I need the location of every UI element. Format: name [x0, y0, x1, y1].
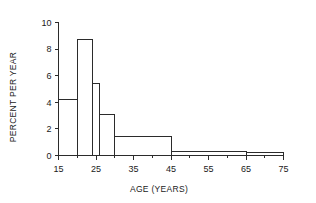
x-tick-label-55: 55 [203, 164, 213, 174]
histogram-bar-45-65 [171, 152, 246, 156]
y-tick-label-8: 8 [46, 44, 51, 54]
x-axis-title: AGE (YEARS) [130, 184, 188, 194]
histogram-bar-24-26 [92, 84, 100, 156]
histogram-bar-20-24 [77, 40, 92, 156]
x-tick-label-75: 75 [278, 164, 288, 174]
histogram-bar-26-30 [100, 114, 115, 155]
y-tick-label-2: 2 [46, 124, 51, 134]
y-axis-title: PERCENT PER YEAR [8, 52, 18, 142]
histogram-bar-15-20 [59, 100, 78, 156]
y-tick-label-6: 6 [46, 71, 51, 81]
histogram-bar-30-45 [115, 137, 171, 156]
chart-canvas: 024681015253545556575 AGE (YEARS) PERCEN… [0, 0, 316, 203]
y-tick-label-0: 0 [46, 151, 51, 161]
x-tick-label-25: 25 [91, 164, 101, 174]
histogram-chart: 024681015253545556575 AGE (YEARS) PERCEN… [0, 0, 316, 203]
x-tick-label-35: 35 [128, 164, 138, 174]
x-tick-label-15: 15 [53, 164, 63, 174]
x-tick-label-65: 65 [241, 164, 251, 174]
y-tick-label-10: 10 [41, 18, 51, 28]
x-tick-label-45: 45 [166, 164, 176, 174]
y-tick-label-4: 4 [46, 98, 51, 108]
